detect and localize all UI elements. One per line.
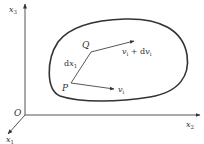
velocity-vector-p xyxy=(71,83,114,89)
point-p-label: P xyxy=(61,83,69,93)
segment-dx-label: dx1 xyxy=(64,59,77,69)
diagram-canvas: x3 x2 x1 O Q P dx1 vi + dvi vi xyxy=(0,0,204,144)
coordinate-axes xyxy=(8,4,200,134)
velocity-p-label: vi xyxy=(118,85,125,95)
x3-axis-label: x3 xyxy=(9,5,18,15)
velocity-q-label: vi + dvi xyxy=(122,47,152,57)
point-q-label: Q xyxy=(82,40,90,50)
x2-axis-label: x2 xyxy=(186,120,194,130)
x1-axis-label: x1 xyxy=(6,135,14,144)
origin-label: O xyxy=(14,108,22,118)
